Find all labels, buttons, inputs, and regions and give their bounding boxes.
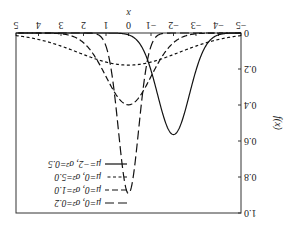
y-tick-label: 1.0 <box>244 208 257 219</box>
x-tick-label: 1 <box>104 20 109 31</box>
plot-frame <box>16 33 241 213</box>
y-tick-label: 0 <box>244 28 249 39</box>
chart-svg: −5−4−3−2−1012345x00.20.40.60.81.0f(x)μ=0… <box>0 0 287 227</box>
y-tick-label: 0.8 <box>244 172 257 183</box>
x-tick-label: −3 <box>191 20 202 31</box>
x-tick-label: 4 <box>36 20 41 31</box>
x-tick-label: −2 <box>168 20 179 31</box>
x-axis-title: x <box>126 8 132 19</box>
legend-label: μ=0, σ²=1.0 <box>54 185 102 195</box>
series-curve <box>16 36 241 65</box>
legend-label: μ=0, σ²=0.2 <box>54 198 102 208</box>
x-tick-label: −1 <box>146 20 157 31</box>
y-axis-title: f(x) <box>272 116 284 131</box>
series-curve <box>16 33 241 135</box>
series-curve <box>16 33 241 194</box>
x-tick-label: 3 <box>59 20 64 31</box>
x-tick-label: −4 <box>213 20 224 31</box>
x-tick-label: 2 <box>81 20 86 31</box>
y-tick-label: 0.6 <box>244 136 257 147</box>
legend-label: μ=−2, σ²=0.5 <box>48 159 102 169</box>
y-tick-label: 0.2 <box>244 64 257 75</box>
legend-label: μ=0, σ²=5.0 <box>54 172 102 182</box>
x-tick-label: 0 <box>126 20 131 31</box>
normal-distribution-chart: −5−4−3−2−1012345x00.20.40.60.81.0f(x)μ=0… <box>0 0 287 227</box>
y-tick-label: 0.4 <box>244 100 257 111</box>
x-tick-label: 5 <box>14 20 19 31</box>
